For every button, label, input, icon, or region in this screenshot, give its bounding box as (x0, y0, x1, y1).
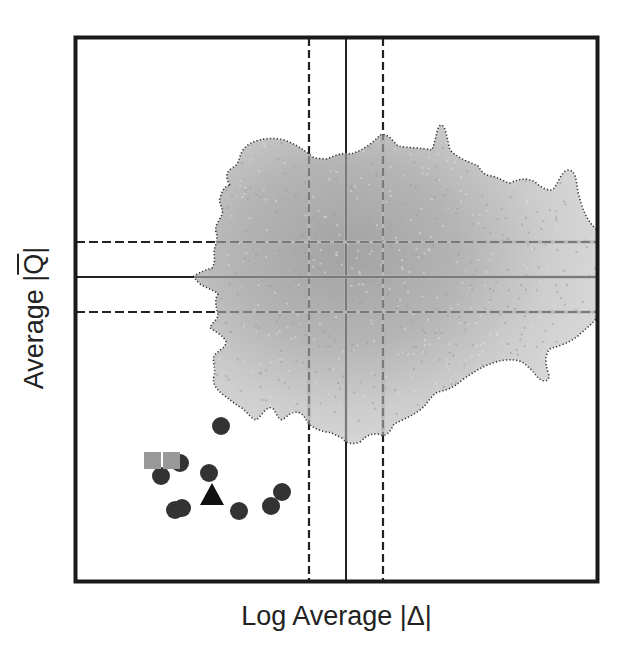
circle-marker (262, 497, 280, 515)
circle-marker (152, 467, 170, 485)
circle-marker (212, 417, 230, 435)
circle-marker (230, 502, 248, 520)
density-cloud (194, 125, 597, 443)
square-marker (163, 452, 180, 469)
y-axis-label: Average |Q| (14, 198, 54, 438)
triangle-marker (200, 483, 224, 505)
circle-marker (200, 464, 218, 482)
circle-marker (273, 483, 291, 501)
square-marker (144, 452, 161, 469)
x-axis-label: Log Average |Δ| (74, 596, 599, 636)
circle-marker (173, 499, 191, 517)
data-markers (144, 417, 291, 520)
scatter-plot (0, 0, 628, 661)
